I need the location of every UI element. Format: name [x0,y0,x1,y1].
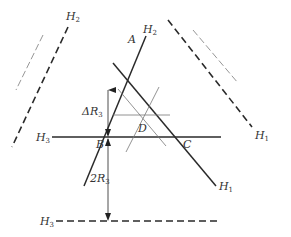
label-h1-right: H1 [254,129,269,143]
dashed-line-h2-thin [16,35,43,90]
label-point-a: A [127,33,136,46]
dashed-line-h1-thin [193,30,238,83]
dashed-line-h1-outer [168,20,252,127]
label-h3-left: H3 [35,131,50,145]
diagram-svg: H2 H2 H1 H1 H3 H3 A B C D ΔR3 2R3 [0,0,291,237]
label-two-r3: 2R3 [89,172,110,186]
diagram-canvas: H2 H2 H1 H1 H3 H3 A B C D ΔR3 2R3 [0,0,291,237]
two-r3-arrowhead [105,213,111,221]
b-arrowhead-up [105,138,111,146]
label-h2-inner: H2 [142,23,157,37]
label-point-d: D [137,122,147,135]
solid-line-h1 [113,63,216,186]
label-point-c: C [183,138,192,151]
thin-line-parallel-h2 [126,87,159,152]
label-h2-top-left: H2 [65,10,80,24]
label-h3-bottom: H3 [39,215,54,229]
label-delta-r3: ΔR3 [81,105,103,119]
label-h1-inner: H1 [218,180,233,194]
dashed-line-h2-outer [12,27,68,147]
label-point-b: B [95,138,104,151]
